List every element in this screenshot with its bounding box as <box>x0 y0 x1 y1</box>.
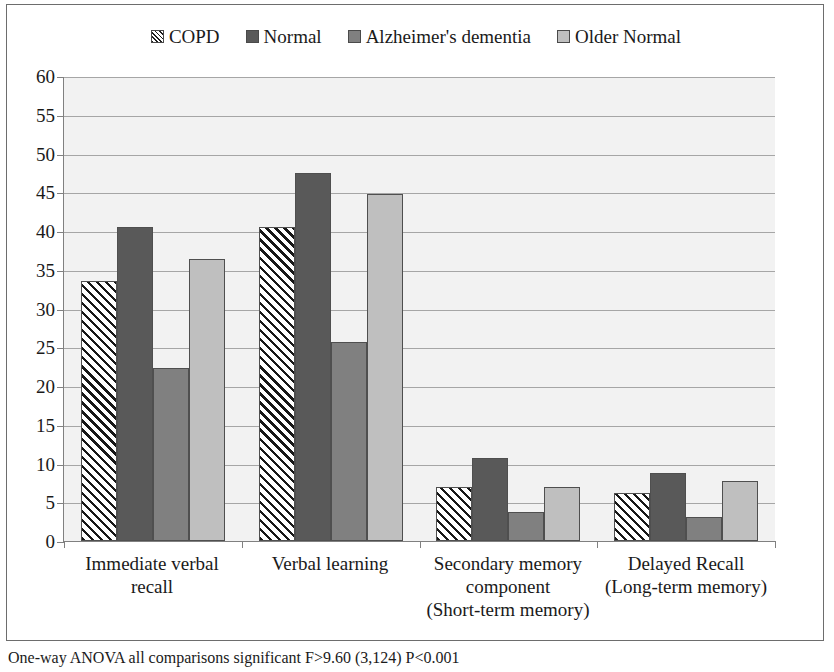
bar-group <box>242 77 420 541</box>
bar-slot <box>614 77 650 541</box>
x-axis-label-line: (Long-term memory) <box>601 575 771 598</box>
x-axis-label-line: Immediate verbal <box>67 552 237 575</box>
legend-item-alzheimers: Alzheimer's dementia <box>348 27 531 46</box>
x-axis-label-line: (Short-term memory) <box>423 598 593 621</box>
y-axis-tick-label: 60 <box>15 67 55 86</box>
legend-label-older-normal: Older Normal <box>575 27 681 46</box>
y-axis-tick-label: 45 <box>15 183 55 202</box>
bar-chart-figure: COPD Normal Alzheimer's dementia Older N… <box>0 0 834 672</box>
bar[interactable] <box>544 487 580 541</box>
y-axis-tick-label: 10 <box>15 455 55 474</box>
bar-slot <box>722 77 758 541</box>
x-axis-label-line: Secondary memory <box>423 552 593 575</box>
y-axis-tick <box>57 77 64 78</box>
y-axis-tick <box>57 193 64 194</box>
bar[interactable] <box>81 281 117 541</box>
legend-label-copd: COPD <box>169 27 220 46</box>
legend-item-copd: COPD <box>151 27 220 46</box>
y-axis-tick <box>57 387 64 388</box>
x-axis-label-line: Verbal learning <box>245 552 415 575</box>
chart-legend: COPD Normal Alzheimer's dementia Older N… <box>7 21 825 51</box>
bar-slot <box>472 77 508 541</box>
bar-groups <box>64 77 775 541</box>
bar[interactable] <box>686 517 722 541</box>
legend-item-normal: Normal <box>246 27 322 46</box>
bar-slot <box>81 77 117 541</box>
y-axis-tick-label: 30 <box>15 300 55 319</box>
legend-label-normal: Normal <box>264 27 322 46</box>
plot-wrapper: 605550454035302520151050 <box>63 77 775 542</box>
bar[interactable] <box>189 259 225 541</box>
bar-slot <box>331 77 367 541</box>
bar-slot <box>544 77 580 541</box>
bar-slot <box>650 77 686 541</box>
bar-slot <box>117 77 153 541</box>
hatch-swatch-icon <box>151 30 164 43</box>
bar[interactable] <box>472 458 508 541</box>
dark-gray-swatch-icon <box>246 30 259 43</box>
x-axis-label-0: Immediate verbalrecall <box>63 552 241 621</box>
x-axis-label-3: Delayed Recall(Long-term memory) <box>597 552 775 621</box>
legend-item-older-normal: Older Normal <box>557 27 681 46</box>
bar[interactable] <box>508 512 544 541</box>
y-axis-tick-label: 5 <box>15 493 55 512</box>
bar[interactable] <box>367 194 403 541</box>
bar-slot <box>367 77 403 541</box>
bar[interactable] <box>722 481 758 541</box>
x-axis-label-line: recall <box>67 575 237 598</box>
chart-caption: One-way ANOVA all comparisons significan… <box>8 649 460 667</box>
bar[interactable] <box>650 473 686 541</box>
x-axis-label-1: Verbal learning <box>241 552 419 621</box>
bar-slot <box>259 77 295 541</box>
bar-slot <box>508 77 544 541</box>
x-axis-label-line: Delayed Recall <box>601 552 771 575</box>
y-axis-tick-label: 15 <box>15 416 55 435</box>
bar[interactable] <box>614 493 650 541</box>
y-axis-tick-labels: 605550454035302520151050 <box>11 77 55 542</box>
bar-slot <box>153 77 189 541</box>
bar-slot <box>686 77 722 541</box>
x-axis-label-2: Secondary memorycomponent(Short-term mem… <box>419 552 597 621</box>
x-axis-ticks <box>64 541 775 549</box>
y-axis-tick-label: 25 <box>15 338 55 357</box>
y-axis-tick-label: 20 <box>15 377 55 396</box>
x-axis-tick <box>597 541 598 548</box>
light-gray-swatch-icon <box>557 30 570 43</box>
y-axis-tick-label: 50 <box>15 145 55 164</box>
y-axis-tick <box>57 465 64 466</box>
y-axis-tick <box>57 426 64 427</box>
y-axis-tick-label: 40 <box>15 222 55 241</box>
y-axis-tick <box>57 271 64 272</box>
y-axis-tick <box>57 232 64 233</box>
y-axis-tick-label: 0 <box>15 532 55 551</box>
mid-gray-swatch-icon <box>348 30 361 43</box>
bar-group <box>64 77 242 541</box>
x-axis-tick <box>420 541 421 548</box>
y-axis-tick-label: 55 <box>15 106 55 125</box>
bar[interactable] <box>295 173 331 541</box>
x-axis-category-labels: Immediate verbalrecallVerbal learningSec… <box>63 552 775 621</box>
chart-frame: COPD Normal Alzheimer's dementia Older N… <box>6 4 824 641</box>
y-axis-tick <box>57 503 64 504</box>
bar[interactable] <box>153 368 189 541</box>
y-axis-tick <box>57 310 64 311</box>
x-axis-tick <box>775 541 776 548</box>
y-axis-tick <box>57 348 64 349</box>
bar[interactable] <box>259 227 295 541</box>
y-axis-tick <box>57 116 64 117</box>
x-axis-tick <box>64 541 65 548</box>
y-axis-tick <box>57 155 64 156</box>
bar-group <box>597 77 775 541</box>
y-axis-tick-label: 35 <box>15 261 55 280</box>
y-axis-tick <box>57 542 64 543</box>
bar[interactable] <box>436 487 472 541</box>
x-axis-label-line: component <box>423 575 593 598</box>
bar[interactable] <box>331 342 367 541</box>
bar-group <box>420 77 598 541</box>
legend-label-alzheimers: Alzheimer's dementia <box>366 27 531 46</box>
plot-area <box>63 77 775 542</box>
x-axis-tick <box>242 541 243 548</box>
bar[interactable] <box>117 227 153 541</box>
bar-slot <box>436 77 472 541</box>
bar-slot <box>295 77 331 541</box>
